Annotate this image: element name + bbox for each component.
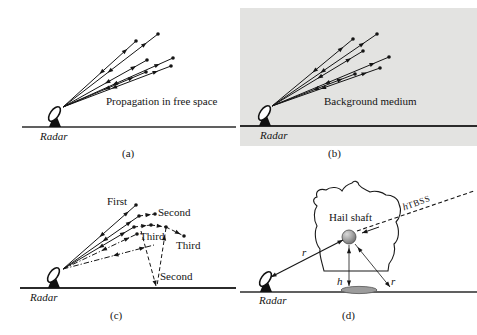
panel-caption-a: (a) <box>122 147 134 159</box>
radar-label-d: Radar <box>259 294 287 306</box>
panel-caption-b: (b) <box>328 147 341 159</box>
free-space-annotation: Propagation in free space <box>106 95 217 107</box>
ground-r-label: r <box>391 275 395 287</box>
radar-dish-icon-d <box>257 270 274 292</box>
height-h-label: h <box>337 275 343 287</box>
tbss-geometry-rays-d <box>271 191 474 287</box>
background-medium-annotation: Background medium <box>324 95 417 107</box>
third-order-label-left: Third <box>140 230 164 242</box>
second-order-label-bottom: Second <box>160 270 192 282</box>
radar-label-b: Radar <box>260 129 288 141</box>
radar-dish-icon-c <box>45 266 62 288</box>
hail-shaft-label: Hail shaft <box>329 211 372 223</box>
diagram-canvas <box>0 0 477 335</box>
range-r-label: r <box>302 246 306 258</box>
storm-cell-outline <box>314 181 401 271</box>
hailstone-icon <box>342 230 356 244</box>
radar-label-a: Radar <box>40 130 68 142</box>
panel-caption-d: (d) <box>342 309 355 321</box>
first-order-label: First <box>107 195 127 207</box>
third-order-label-right: Third <box>176 239 200 251</box>
four-panel-radar-propagation-figure: Propagation in free space Radar (a) Back… <box>0 0 477 335</box>
panel-caption-c: (c) <box>110 309 122 321</box>
radar-label-c: Radar <box>30 291 58 303</box>
radar-dish-icon-a <box>46 105 63 127</box>
second-order-label-top: Second <box>158 206 190 218</box>
ground-footprint-ellipse <box>341 286 377 293</box>
